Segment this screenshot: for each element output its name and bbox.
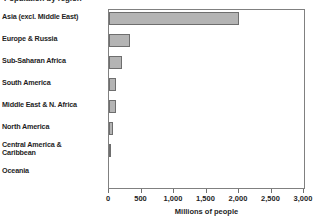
x-tick-5 [271, 189, 272, 193]
x-axis-tick-labels: 05001,0001,5002,0002,5003,000 [0, 194, 320, 205]
category-label-oceania: Oceania [2, 167, 106, 175]
x-tick-1 [141, 189, 142, 193]
bars-container [109, 10, 304, 188]
x-tick-label-0: 0 [106, 194, 110, 204]
x-tick-3 [206, 189, 207, 193]
bar-asia [109, 12, 239, 25]
category-label-sub-saharan-africa: Sub-Saharan Africa [2, 57, 106, 65]
x-tick-label-2: 1,000 [164, 194, 183, 204]
chart-title: Population by region [4, 0, 304, 3]
x-tick-label-3: 1,500 [196, 194, 215, 204]
category-label-central-america-caribbean: Central America & Caribbean [2, 141, 106, 157]
x-tick-label-6: 3,000 [294, 194, 313, 204]
bar-europe-russia [109, 34, 130, 47]
x-tick-0 [108, 189, 109, 193]
category-label-asia: Asia (excl. Middle East) [2, 13, 106, 21]
x-tick-2 [173, 189, 174, 193]
bar-middle-east-n-africa [109, 100, 116, 113]
category-label-north-america: North America [2, 123, 106, 131]
category-label-south-america: South America [2, 79, 106, 87]
bar-south-america [109, 78, 116, 91]
x-tick-label-4: 2,000 [229, 194, 248, 204]
category-label-europe-russia: Europe & Russia [2, 35, 106, 43]
x-tick-label-5: 2,500 [261, 194, 280, 204]
category-label-middle-east-n-africa: Middle East & N. Africa [2, 101, 106, 109]
bar-north-america [109, 122, 113, 135]
x-tick-label-1: 500 [134, 194, 147, 204]
x-tick-4 [238, 189, 239, 193]
x-axis-title: Millions of people [108, 207, 305, 217]
category-axis-labels: Asia (excl. Middle East) Europe & Russia… [0, 9, 106, 189]
bar-chart: Population by region Asia (excl. Middle … [0, 0, 320, 224]
bar-central-america-caribbean [109, 144, 111, 157]
bar-sub-saharan-africa [109, 56, 122, 69]
x-tick-6 [303, 189, 304, 193]
plot-area [108, 9, 305, 189]
